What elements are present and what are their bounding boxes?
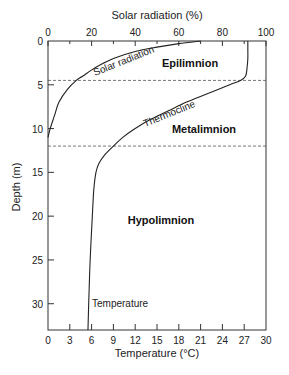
epilimnion-label: Epilimnion: [162, 57, 219, 69]
y-axis-tick-label: 25: [32, 255, 44, 266]
bottom-axis-tick-label: 21: [195, 335, 207, 346]
labels: Solar radiation (%) Temperature (°C) Dep…: [10, 9, 236, 359]
data-curves: [48, 41, 248, 330]
top-axis-tick-label: 100: [258, 27, 275, 38]
hypolimnion-label: Hypolimnion: [128, 214, 195, 226]
y-axis-tick-label: 10: [32, 124, 44, 135]
y-axis-title: Depth (m): [10, 163, 22, 212]
bottom-axis-tick-label: 9: [111, 335, 117, 346]
bottom-axis-tick-label: 30: [260, 335, 272, 346]
top-axis-tick-label: 0: [45, 27, 51, 38]
bottom-axis-title: Temperature (°C): [115, 347, 199, 359]
bottom-axis-tick-label: 15: [151, 335, 163, 346]
temperature-curve: [88, 41, 248, 330]
top-axis-tick-label: 20: [86, 27, 98, 38]
bottom-axis-tick-label: 3: [67, 335, 73, 346]
y-axis-tick-label: 15: [32, 167, 44, 178]
y-axis-tick-label: 0: [37, 36, 43, 47]
top-axis-tick-label: 80: [217, 27, 229, 38]
bottom-axis-tick-label: 6: [89, 335, 95, 346]
bottom-axis-tick-label: 27: [239, 335, 251, 346]
lake-stratification-chart: 0204060801000369121518212427300510152025…: [0, 0, 289, 375]
bottom-axis-tick-label: 12: [130, 335, 142, 346]
y-axis-tick-label: 20: [32, 211, 44, 222]
y-axis-tick-label: 30: [32, 299, 44, 310]
bottom-axis-tick-label: 24: [217, 335, 229, 346]
y-axis-tick-label: 5: [37, 80, 43, 91]
solar-radiation-label: Solar radiation: [92, 43, 156, 77]
bottom-axis-tick-label: 18: [173, 335, 185, 346]
top-axis-tick-label: 60: [173, 27, 185, 38]
metalimnion-label: Metalimnion: [172, 123, 236, 135]
top-axis-tick-label: 40: [130, 27, 142, 38]
temperature-curve-label: Temperature: [92, 298, 149, 309]
axis-ticks: 0204060801000369121518212427300510152025…: [32, 27, 275, 346]
plot-border: [48, 41, 266, 330]
plot-frame: [48, 41, 266, 330]
top-axis-title: Solar radiation (%): [111, 9, 202, 21]
bottom-axis-tick-label: 0: [45, 335, 51, 346]
